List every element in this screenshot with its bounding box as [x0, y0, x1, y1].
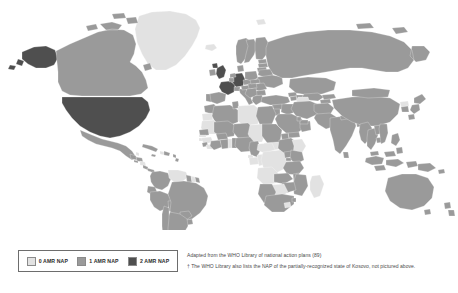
- country-south-korea: [401, 106, 409, 112]
- country-svalbard: [256, 19, 266, 25]
- caption-block: Adapted from the WHO Library of national…: [187, 250, 452, 272]
- country-venezuela: [168, 170, 188, 182]
- country-belize: [136, 152, 139, 156]
- figure-root: 0 AMR NAP 1 AMR NAP 2 AMR NAP Adapted fr…: [0, 0, 458, 293]
- country-greenland: [135, 11, 200, 70]
- map-legend: 0 AMR NAP 1 AMR NAP 2 AMR NAP: [18, 250, 178, 272]
- country-russian-federation: [266, 23, 430, 78]
- country-new-guinea-islands: [438, 169, 445, 174]
- country-uae: [300, 120, 308, 124]
- country-cuba: [142, 144, 158, 152]
- country-jamaica: [151, 154, 156, 157]
- legend-entry-1: 1 AMR NAP: [77, 257, 118, 266]
- country-portugal: [206, 94, 211, 102]
- legend-swatch-2-icon: [128, 257, 137, 266]
- country-western-sahara: [202, 113, 213, 121]
- country-mozambique: [293, 174, 308, 196]
- country-slovakia: [250, 79, 260, 84]
- legend-label-1: 1 AMR NAP: [89, 258, 118, 264]
- country-madagascar: [310, 175, 324, 198]
- country-turkey: [261, 95, 290, 105]
- country-malaysia: [370, 151, 396, 157]
- country-dominican-republic: [164, 151, 170, 156]
- country-eswatini: [292, 198, 296, 202]
- country-iceland: [205, 44, 217, 51]
- country-sri-lanka: [343, 152, 349, 158]
- country-papua-new-guinea: [418, 163, 436, 172]
- country-tasmania: [424, 209, 431, 215]
- legend-label-0: 0 AMR NAP: [39, 258, 68, 264]
- country-united-republic-of-tanzania: [283, 161, 304, 175]
- legend-swatch-0-icon: [27, 257, 36, 266]
- map-svg: [0, 2, 458, 230]
- country-suriname: [191, 176, 196, 182]
- legend-entry-2: 2 AMR NAP: [128, 257, 169, 266]
- country-ireland: [209, 69, 216, 76]
- country-japan: [408, 94, 426, 120]
- country-belgium: [229, 78, 234, 82]
- caption-footnote-line: † The WHO Library also lists the NAP of …: [187, 261, 452, 272]
- legend-label-2: 2 AMR NAP: [140, 258, 169, 264]
- country-netherlands: [230, 73, 236, 78]
- world-choropleth-map: [0, 2, 458, 230]
- country-mongolia: [352, 88, 390, 98]
- country-gambia: [199, 135, 206, 137]
- country-australia: [385, 174, 434, 210]
- country-spain: [209, 92, 226, 104]
- country-burkina-faso: [216, 133, 228, 140]
- country-togo: [228, 139, 232, 148]
- country-haiti: [160, 151, 164, 155]
- country-qatar-kuwait: [297, 117, 301, 121]
- legend-swatch-1-icon: [77, 257, 86, 266]
- country-lesser-antilles: [173, 154, 179, 162]
- country-denmark: [237, 65, 244, 72]
- country-indonesia: [365, 156, 418, 171]
- country-rwanda: [286, 158, 291, 161]
- country-armenia: [290, 96, 297, 101]
- country-kazakhstan: [289, 77, 336, 95]
- country-philippines: [391, 133, 403, 154]
- legend-entry-0: 0 AMR NAP: [27, 257, 68, 266]
- map-countries-layer: [8, 11, 455, 230]
- caption-source-line: Adapted from the WHO Library of national…: [187, 250, 452, 261]
- country-yemen: [288, 132, 300, 138]
- country-lesotho: [284, 202, 291, 208]
- country-alaska: [8, 46, 58, 70]
- country-new-zealand: [444, 202, 455, 216]
- country-united-states: [62, 97, 150, 138]
- country-ghana: [220, 139, 229, 149]
- country-egypt: [256, 106, 276, 125]
